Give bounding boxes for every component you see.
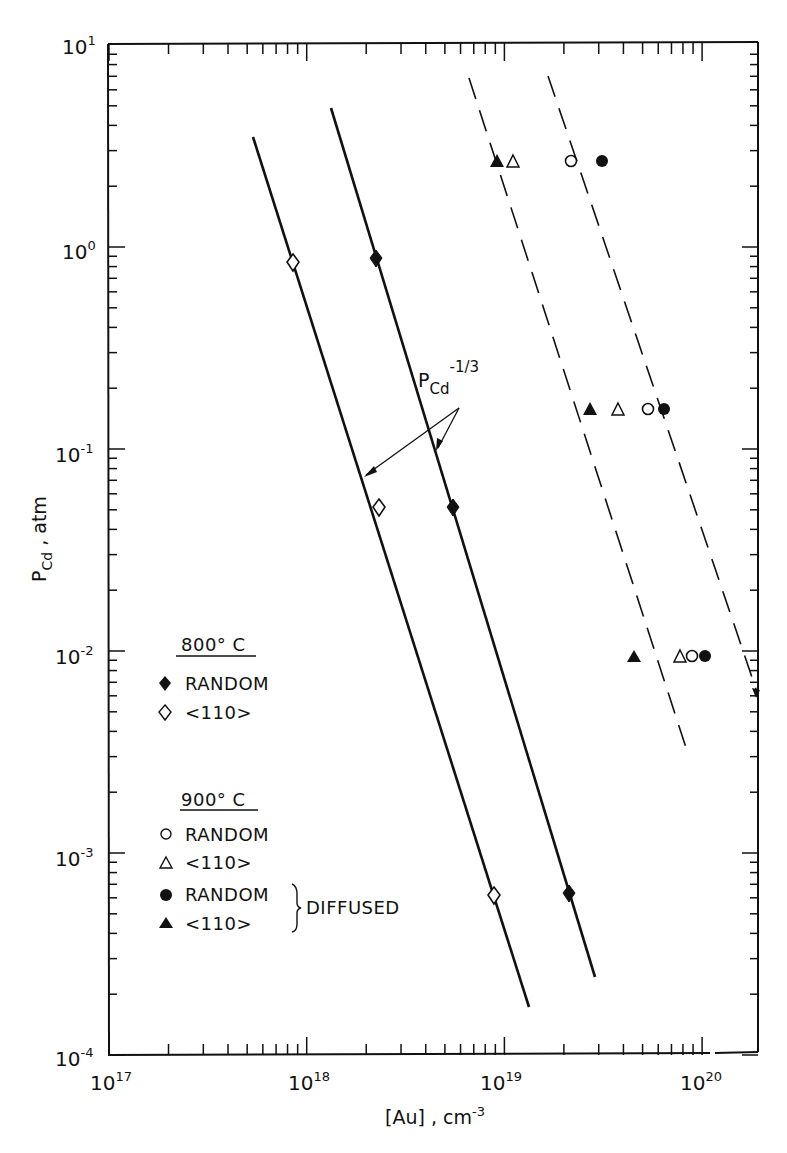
y-tick-10e-4: 10-4 <box>55 1045 93 1071</box>
x-tick-labels: 1017 1018 1019 1020 <box>90 1069 722 1095</box>
fit-line-900c-right-dashed <box>548 76 758 695</box>
filled-circle-marker <box>699 650 711 662</box>
filled-diamond-marker <box>447 499 459 516</box>
filled-circle-marker <box>658 403 670 415</box>
svg-text:<110>: <110> <box>185 852 252 873</box>
filled-triangle-marker <box>583 402 597 415</box>
svg-text:<110>: <110> <box>185 913 252 934</box>
legend-open-diamond-icon <box>159 705 171 720</box>
y-tick-labels: 101 100 10-1 10-2 10-3 10-4 <box>55 33 96 1071</box>
filled-diamond-marker <box>370 250 382 267</box>
fit-lines-800c <box>253 108 595 1007</box>
open-diamond-marker <box>373 499 385 516</box>
filled-diamond-marker <box>563 885 575 902</box>
y-axis-title: PCd , atm <box>28 496 55 582</box>
x-tick-10e19: 1019 <box>480 1069 522 1095</box>
y-tick-10e0: 100 <box>62 238 96 264</box>
filled-triangle-marker <box>490 154 504 167</box>
svg-text:<110>: <110> <box>185 702 252 723</box>
legend-open-circle-icon <box>161 829 171 839</box>
svg-text:RANDOM: RANDOM <box>185 673 269 694</box>
filled-circle-marker <box>596 155 608 167</box>
legend-900c-title: 900° C <box>181 789 246 810</box>
open-diamond-marker <box>488 887 500 904</box>
fit-line-900c-left-dashed <box>469 78 689 757</box>
open-circle-marker <box>643 404 654 415</box>
open-circle-marker <box>687 651 698 662</box>
svg-text:RANDOM: RANDOM <box>185 824 269 845</box>
legend-open-triangle-icon <box>160 857 172 868</box>
legend-800c-title: 800° C <box>181 634 246 655</box>
y-tick-10e-2: 10-2 <box>55 643 93 669</box>
legend-filled-circle-icon <box>160 889 172 901</box>
legend-brace <box>292 884 301 932</box>
open-triangle-marker <box>507 155 519 167</box>
legend-filled-diamond-icon <box>159 676 171 691</box>
filled-triangle-marker <box>627 650 641 662</box>
open-triangle-marker <box>674 650 686 662</box>
y-tick-10e1: 101 <box>62 33 96 59</box>
slope-annotation: PCd-1/3 <box>364 358 479 477</box>
svg-text:PCd , atm: PCd , atm <box>28 496 55 582</box>
open-circle-marker <box>566 156 577 167</box>
legend-filled-triangle-icon <box>159 917 173 928</box>
chart: 101 100 10-1 10-2 10-3 10-4 1017 1018 10… <box>0 0 787 1153</box>
fit-lines-900c <box>469 76 758 757</box>
y-tick-10e-3: 10-3 <box>55 845 93 871</box>
y-tick-10e-1: 10-1 <box>55 441 93 467</box>
x-tick-10e18: 1018 <box>288 1069 330 1095</box>
fit-line-800c-random <box>331 108 595 977</box>
open-triangle-marker <box>612 403 624 415</box>
x-tick-10e17: 1017 <box>90 1069 132 1095</box>
svg-text:RANDOM: RANDOM <box>185 884 269 905</box>
x-tick-10e20: 1020 <box>680 1069 722 1095</box>
x-axis-title: [Au] , cm-3 <box>385 1104 485 1128</box>
legend: 800° C RANDOM <110> 900° C RANDOM <110> … <box>159 634 400 934</box>
open-diamond-marker <box>287 254 299 271</box>
svg-text:DIFFUSED: DIFFUSED <box>306 897 400 918</box>
svg-text:PCd-1/3: PCd-1/3 <box>418 358 479 398</box>
markers-900c-open-circle <box>566 156 698 662</box>
